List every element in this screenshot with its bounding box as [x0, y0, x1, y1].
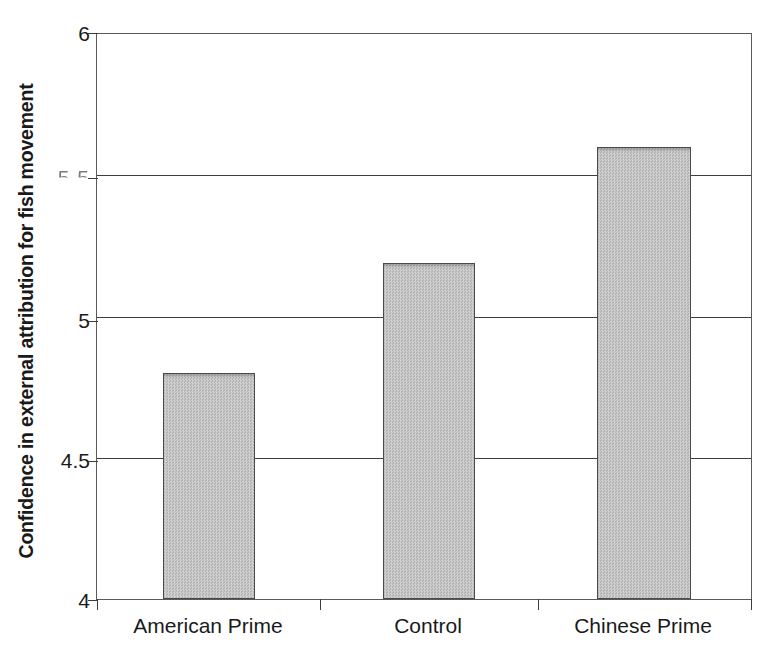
bar-control: [383, 263, 475, 599]
bar-chart: Confidence in external attribution for f…: [0, 0, 776, 659]
y-tick-label-5: 5: [30, 310, 90, 331]
y-tick-label-4-5: 4.5: [30, 450, 90, 471]
y-tick-label-5-5: 5.5: [30, 167, 90, 188]
x-label-control: Control: [394, 612, 462, 640]
y-tick-label-4: 4: [30, 590, 90, 611]
y-tick-mark-4-5: [88, 461, 98, 462]
y-tick-mark-5: [88, 321, 98, 322]
x-tick-mark-right: [751, 599, 752, 610]
x-tick-mark-1: [320, 599, 321, 610]
x-axis-labels: American Prime Control Chinese Prime: [96, 612, 752, 652]
y-tick-mark-5-5: [88, 178, 98, 179]
bar-chinese-prime: [597, 147, 691, 599]
bar-american-prime: [163, 373, 255, 599]
y-tick-mark-6: [88, 33, 98, 34]
x-label-chinese-prime: Chinese Prime: [574, 612, 712, 640]
y-tick-label-6: 6: [30, 23, 90, 44]
x-tick-mark-2: [538, 599, 539, 610]
x-label-american-prime: American Prime: [133, 612, 282, 640]
y-axis-tick-labels: 6 5.5 5 4.5 4: [26, 0, 90, 659]
x-tick-mark-left: [97, 599, 98, 610]
plot-area: [96, 33, 752, 600]
